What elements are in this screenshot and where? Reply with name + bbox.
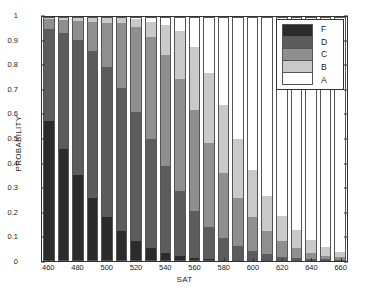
- bar-500[interactable]: [101, 17, 113, 261]
- legend-label-f: F: [321, 25, 338, 34]
- bar-segment-b: [130, 19, 142, 26]
- bar-570[interactable]: [203, 17, 215, 261]
- x-tick-label-660: 660: [326, 264, 356, 272]
- y-tick-label-0p6: 0.6: [0, 111, 18, 119]
- bar-segment-a: [189, 17, 201, 47]
- y-tick-mark: [41, 65, 45, 66]
- bar-segment-b: [232, 139, 244, 198]
- bar-segment-d: [130, 112, 142, 241]
- y-tick-mark-right: [344, 65, 348, 66]
- bar-610[interactable]: [261, 17, 273, 261]
- bar-segment-d: [43, 29, 55, 121]
- bar-segment-f: [261, 260, 273, 261]
- x-tick-label-540: 540: [150, 264, 180, 272]
- bar-segment-c: [261, 231, 273, 254]
- y-tick-mark-right: [344, 139, 348, 140]
- y-tick-mark-right: [344, 188, 348, 189]
- bar-segment-b: [203, 73, 215, 144]
- bar-segment-d: [174, 191, 186, 256]
- bar-segment-a: [218, 17, 230, 105]
- bar-560[interactable]: [189, 17, 201, 261]
- bar-segment-b: [247, 170, 259, 217]
- bar-segment-f: [232, 260, 244, 261]
- legend-swatch-b: [283, 60, 312, 72]
- y-tick-mark-right: [344, 114, 348, 115]
- x-tick-mark: [253, 258, 254, 262]
- x-tick-label-500: 500: [92, 264, 122, 272]
- x-tick-label-600: 600: [238, 264, 268, 272]
- bar-segment-c: [43, 19, 55, 29]
- bar-segment-c: [72, 21, 84, 40]
- bar-480[interactable]: [72, 17, 84, 261]
- bar-segment-c: [130, 27, 142, 113]
- bar-540[interactable]: [160, 17, 172, 261]
- bar-510[interactable]: [116, 17, 128, 261]
- bar-490[interactable]: [87, 17, 99, 261]
- bar-segment-d: [218, 238, 230, 260]
- legend-swatch-f: [283, 25, 312, 36]
- x-tick-mark: [311, 258, 312, 262]
- bar-530[interactable]: [145, 17, 157, 261]
- y-tick-mark-right: [344, 163, 348, 164]
- x-tick-mark: [136, 258, 137, 262]
- y-tick-mark: [41, 237, 45, 238]
- bar-segment-d: [116, 88, 128, 232]
- y-tick-label-0p8: 0.8: [0, 61, 18, 69]
- bar-segment-d: [87, 51, 99, 198]
- legend-label-b: B: [321, 63, 338, 72]
- bar-segment-b: [291, 230, 303, 248]
- bar-470[interactable]: [58, 17, 70, 261]
- bar-segment-b: [145, 22, 157, 37]
- bar-segment-f: [145, 248, 157, 261]
- bar-segment-a: [261, 17, 273, 196]
- y-tick-mark: [41, 163, 45, 164]
- bar-segment-c: [174, 79, 186, 190]
- bar-segment-c: [291, 248, 303, 258]
- y-tick-label-1: 1: [0, 12, 18, 20]
- bar-segment-b: [276, 216, 288, 242]
- x-tick-mark: [78, 258, 79, 262]
- x-tick-label-560: 560: [180, 264, 210, 272]
- bar-segment-b: [320, 247, 332, 256]
- legend-swatch-column: [282, 24, 313, 85]
- bar-segment-f: [174, 256, 186, 261]
- bar-segment-c: [58, 20, 70, 32]
- y-tick-mark: [41, 139, 45, 140]
- bar-segment-c: [189, 110, 201, 210]
- bar-segment-c: [276, 241, 288, 256]
- x-tick-label-480: 480: [63, 264, 93, 272]
- bar-segment-f: [101, 217, 113, 261]
- y-tick-label-0p1: 0.1: [0, 234, 18, 242]
- x-tick-mark: [282, 258, 283, 262]
- y-tick-mark: [41, 89, 45, 90]
- bar-600[interactable]: [247, 17, 259, 261]
- y-tick-label-0p2: 0.2: [0, 209, 18, 217]
- x-axis-label: SAT: [0, 275, 369, 284]
- bar-590[interactable]: [232, 17, 244, 261]
- bar-segment-a: [203, 17, 215, 73]
- bar-segment-f: [72, 175, 84, 261]
- x-tick-label-620: 620: [267, 264, 297, 272]
- bar-segment-f: [116, 231, 128, 261]
- bar-segment-c: [232, 198, 244, 246]
- bar-520[interactable]: [130, 17, 142, 261]
- bar-segment-f: [43, 121, 55, 261]
- bar-550[interactable]: [174, 17, 186, 261]
- bar-segment-f: [203, 259, 215, 261]
- bar-segment-f: [291, 260, 303, 261]
- x-tick-mark: [48, 258, 49, 262]
- x-tick-label-580: 580: [209, 264, 239, 272]
- bar-segment-b: [160, 25, 172, 55]
- bar-segment-a: [174, 17, 186, 31]
- bar-segment-d: [101, 67, 113, 217]
- bar-segment-b: [189, 47, 201, 111]
- bar-segment-d: [145, 139, 157, 248]
- bar-segment-c: [203, 143, 215, 226]
- y-tick-mark: [41, 188, 45, 189]
- legend-label-c: C: [321, 50, 338, 59]
- x-tick-label-520: 520: [121, 264, 151, 272]
- y-tick-mark-right: [344, 237, 348, 238]
- bar-580[interactable]: [218, 17, 230, 261]
- bar-segment-c: [87, 22, 99, 51]
- bar-segment-d: [189, 211, 201, 258]
